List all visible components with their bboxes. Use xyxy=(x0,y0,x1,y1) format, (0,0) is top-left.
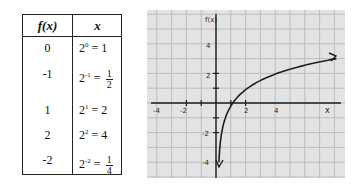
x-axis-label: x xyxy=(325,106,330,115)
column-divider xyxy=(72,15,73,174)
header-divider xyxy=(23,36,121,37)
x-tick-label: -2 xyxy=(180,107,187,115)
fraction: 14 xyxy=(106,155,113,176)
header-fx: f(x) xyxy=(23,18,72,34)
x-expression: 21 = 2 xyxy=(79,103,107,118)
power-result: 4 xyxy=(101,128,107,142)
fx-value: 1 xyxy=(23,103,72,118)
y-axis-label: f(x) xyxy=(205,16,217,24)
equals-sign: = xyxy=(91,157,104,171)
x-expression: 20 = 1 xyxy=(79,41,107,56)
x-expression: 22 = 4 xyxy=(79,128,107,143)
equals-sign: = xyxy=(89,128,102,142)
equals-sign: = xyxy=(89,103,102,117)
log-graph: f(x) x -4 -2 2 4 4 2 -2 -4 xyxy=(147,10,345,178)
power-result: 1 xyxy=(101,41,107,55)
value-table: f(x) x 020 = 1-12-1 = 12121 = 2222 = 4-2… xyxy=(22,14,122,175)
y-tick-label: -4 xyxy=(202,159,210,167)
equals-sign: = xyxy=(89,41,102,55)
denominator: 4 xyxy=(106,166,113,176)
fx-value: -2 xyxy=(23,153,72,168)
x-tick-label: -4 xyxy=(153,107,161,115)
x-expression: 2-1 = 12 xyxy=(79,69,113,90)
fx-value: -1 xyxy=(23,67,72,82)
x-tick-label: 2 xyxy=(244,107,248,115)
x-tick-label: 4 xyxy=(274,107,279,115)
y-tick-label: 4 xyxy=(206,42,211,50)
header-x: x xyxy=(73,18,122,34)
fx-value: 2 xyxy=(23,128,72,143)
x-expression: 2-2 = 14 xyxy=(79,155,113,176)
denominator: 2 xyxy=(106,80,113,90)
y-tick-label: 2 xyxy=(206,72,210,80)
power-result: 2 xyxy=(101,103,107,117)
fraction: 12 xyxy=(106,69,113,90)
fx-value: 0 xyxy=(23,41,72,56)
y-tick-label: -2 xyxy=(202,130,209,138)
equals-sign: = xyxy=(91,71,104,85)
